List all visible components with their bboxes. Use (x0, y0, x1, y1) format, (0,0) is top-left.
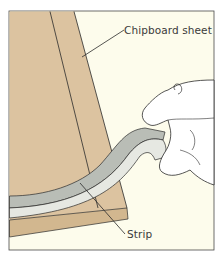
illustration-frame (0, 0, 224, 254)
strip-label: Strip (127, 228, 152, 240)
chipboard-sheet-label: Chipboard sheet (124, 24, 212, 36)
chipboard-strip-illustration (0, 0, 224, 254)
